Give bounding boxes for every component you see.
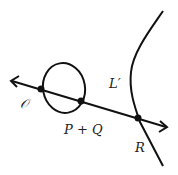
elliptic-curve-diagram: 𝒪 P + Q L′ R [0, 0, 178, 175]
label-p-plus-q: P + Q [63, 122, 103, 137]
oval-curve [39, 60, 89, 117]
secant-line [12, 81, 166, 127]
point-o [38, 86, 45, 93]
point-p-plus-q [78, 98, 85, 105]
label-origin: 𝒪 [20, 96, 32, 111]
label-l-prime: L′ [108, 76, 121, 91]
label-r: R [134, 140, 145, 155]
point-r [135, 115, 142, 122]
